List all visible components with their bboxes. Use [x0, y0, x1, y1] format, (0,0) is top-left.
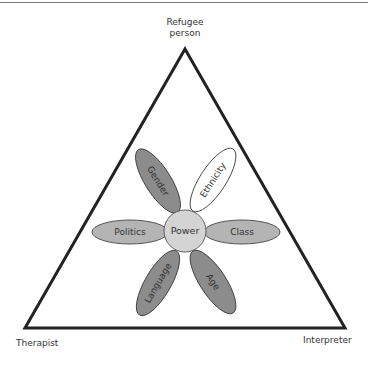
power-triangle-diagram: Gender Ethnicity Politics Class Language… [0, 0, 368, 365]
petal-class: Class [204, 220, 280, 244]
petal-politics: Politics [92, 220, 168, 244]
vertex-label-therapist: Therapist [16, 338, 58, 349]
petal-label-class: Class [230, 227, 254, 237]
vertex-label-refugee-line2: person [150, 28, 220, 39]
center-power: Power [164, 210, 206, 252]
relationship-triangle [25, 49, 345, 328]
vertex-label-refugee-line1: Refugee [150, 17, 220, 28]
petal-gender: Gender [127, 143, 188, 220]
petal-age: Age [182, 244, 244, 320]
vertex-label-refugee: Refugee person [150, 17, 220, 39]
center-label: Power [171, 225, 200, 236]
petal-ethnicity: Ethnicity [182, 142, 244, 218]
petal-language: Language [128, 244, 188, 321]
vertex-label-interpreter: Interpreter [303, 335, 352, 346]
petal-label-politics: Politics [114, 227, 146, 237]
